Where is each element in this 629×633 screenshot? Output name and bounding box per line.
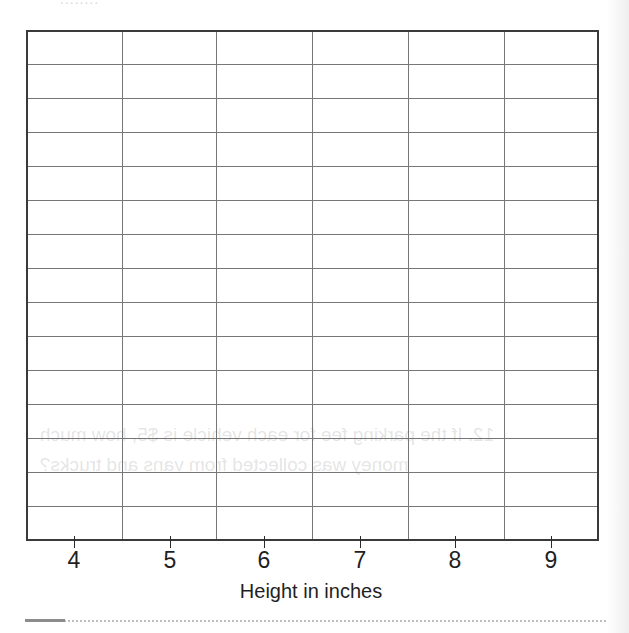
gridline-vertical [408,32,409,539]
x-tick-label: 8 [440,548,470,572]
page-edge-shadow [607,0,629,633]
x-tick-label: 7 [345,548,375,572]
plot-area [26,30,599,541]
x-axis-title: Height in inches [0,580,622,602]
gridline-vertical [312,32,313,539]
divider-accent [25,619,65,622]
gridline-vertical [122,32,123,539]
cut-off-header-text: ........ [60,0,99,7]
x-tick-label: 4 [59,548,89,572]
gridline-vertical [504,32,505,539]
x-tick-label: 5 [155,548,185,572]
gridline-vertical [216,32,217,539]
x-tick-label: 6 [249,548,279,572]
dotted-divider [25,620,606,622]
x-tick-label: 9 [536,548,566,572]
